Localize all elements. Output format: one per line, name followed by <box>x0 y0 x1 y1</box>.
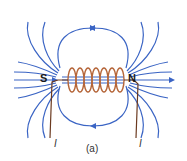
solenoid-diagram <box>0 0 187 161</box>
current-label-left: I <box>54 138 57 149</box>
figure-caption: (a) <box>86 143 98 154</box>
lead-wires <box>50 80 138 138</box>
field-lines <box>14 22 172 138</box>
north-pole-label: N <box>128 72 136 84</box>
south-pole-label: S <box>40 72 47 84</box>
current-label-right: I <box>139 138 142 149</box>
